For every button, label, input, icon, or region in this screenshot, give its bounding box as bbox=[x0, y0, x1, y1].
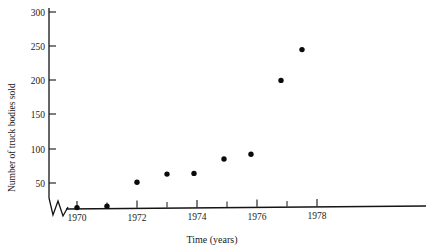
x-tick-label: 1976 bbox=[248, 212, 267, 222]
y-tick-label: 250 bbox=[31, 42, 46, 52]
chart-canvas: Number of truck bodies sold 300 250 200 … bbox=[0, 0, 431, 252]
axis-break-zigzag bbox=[49, 198, 68, 216]
y-tick-label: 100 bbox=[31, 145, 46, 155]
y-axis-ticks bbox=[49, 12, 56, 183]
y-tick-label: 50 bbox=[36, 179, 46, 189]
data-point bbox=[134, 180, 139, 185]
data-point bbox=[104, 204, 109, 209]
x-tick-label: 1970 bbox=[68, 213, 87, 223]
y-axis-title: Number of truck bodies sold bbox=[7, 83, 17, 192]
y-tick-label: 300 bbox=[31, 8, 46, 18]
y-tick-label: 200 bbox=[31, 76, 46, 86]
y-tick-label: 150 bbox=[31, 110, 46, 120]
data-point bbox=[191, 171, 196, 176]
data-point bbox=[278, 78, 283, 83]
data-point bbox=[299, 47, 304, 52]
scatter-plot: Number of truck bodies sold 300 250 200 … bbox=[0, 0, 431, 252]
data-point-group bbox=[74, 47, 304, 210]
x-axis-tick-labels: 1970 1972 1974 1976 1978 bbox=[68, 211, 327, 223]
data-point bbox=[74, 205, 79, 210]
y-axis-tick-labels: 300 250 200 150 100 50 bbox=[31, 8, 46, 189]
x-tick-label: 1974 bbox=[188, 212, 207, 222]
x-tick-label: 1972 bbox=[128, 213, 147, 223]
data-point bbox=[164, 171, 169, 176]
data-point bbox=[221, 156, 226, 161]
x-axis-line bbox=[66, 206, 426, 209]
x-axis-title: Time (years) bbox=[186, 234, 237, 246]
x-tick-label: 1978 bbox=[308, 211, 327, 221]
data-point bbox=[248, 152, 253, 157]
